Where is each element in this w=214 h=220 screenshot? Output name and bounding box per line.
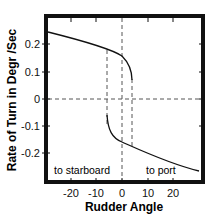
y-tick-labels: 0.2 0.1 0 -0.1 -0.2 [21,38,40,159]
upper-branch-curve [48,32,132,80]
svg-text:-0.1: -0.1 [21,120,40,132]
annotation-port: to port [146,164,176,176]
svg-text:0.2: 0.2 [25,38,40,50]
svg-text:0: 0 [34,93,40,105]
x-tick-labels: -20 -10 0 10 20 [63,187,179,199]
lower-branch-curve [107,115,199,171]
svg-text:10: 10 [142,187,154,199]
svg-text:-0.2: -0.2 [21,147,40,159]
x-axis-label: Rudder Angle [85,200,164,214]
svg-text:0: 0 [119,187,125,199]
y-axis-label: Rate of Turn in Degr /Sec [5,28,19,171]
svg-text:20: 20 [167,187,179,199]
reference-lines [48,18,201,180]
svg-text:0.1: 0.1 [25,66,40,78]
annotation-starboard: to starboard [54,164,110,176]
svg-text:-10: -10 [88,187,104,199]
svg-text:-20: -20 [63,187,79,199]
rate-of-turn-chart: 0.2 0.1 0 -0.1 -0.2 -20 -10 0 10 20 to s… [0,0,214,220]
